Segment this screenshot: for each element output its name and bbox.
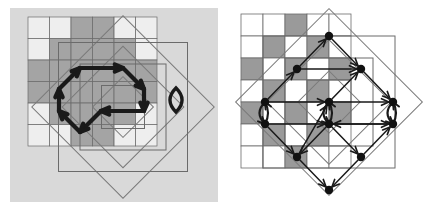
lattice-cell bbox=[241, 146, 263, 168]
graph-node[interactable] bbox=[293, 65, 301, 73]
lattice-cell bbox=[136, 125, 158, 147]
lattice-cell bbox=[241, 14, 263, 36]
lattice-cell bbox=[93, 39, 115, 61]
lattice-cell bbox=[71, 17, 93, 39]
lattice-cell bbox=[50, 39, 72, 61]
lattice-cell bbox=[136, 60, 158, 82]
lattice-cell bbox=[307, 146, 329, 168]
left-panel bbox=[10, 8, 218, 202]
lattice-cell bbox=[28, 125, 50, 147]
lattice-cell bbox=[263, 146, 285, 168]
graph-node[interactable] bbox=[325, 32, 333, 40]
lattice-cell bbox=[136, 17, 158, 39]
graph-node[interactable] bbox=[389, 98, 397, 106]
lattice-cell bbox=[307, 14, 329, 36]
lattice-cell bbox=[241, 58, 263, 80]
lattice-cell bbox=[285, 36, 307, 58]
lattice-cell bbox=[329, 146, 351, 168]
lattice-cell bbox=[114, 103, 136, 125]
lattice-cell bbox=[241, 124, 263, 146]
graph-node[interactable] bbox=[357, 65, 365, 73]
graph-node[interactable] bbox=[325, 120, 333, 128]
lattice-cell bbox=[241, 80, 263, 102]
lattice-cell bbox=[241, 36, 263, 58]
lattice-cell bbox=[71, 82, 93, 104]
graph-node[interactable] bbox=[293, 153, 301, 161]
graph-node[interactable] bbox=[389, 120, 397, 128]
lattice-cell bbox=[136, 39, 158, 61]
lattice-cell bbox=[285, 124, 307, 146]
lattice-cell bbox=[329, 14, 351, 36]
lattice-cell bbox=[263, 58, 285, 80]
lattice-cell bbox=[114, 82, 136, 104]
lattice-cell bbox=[285, 80, 307, 102]
lattice-diagram-svg bbox=[0, 0, 429, 213]
lattice-cell bbox=[285, 102, 307, 124]
figure-container bbox=[0, 0, 429, 213]
right-lattice-base bbox=[241, 14, 351, 168]
lattice-cell bbox=[263, 36, 285, 58]
lattice-cell bbox=[263, 14, 285, 36]
lattice-cell bbox=[114, 17, 136, 39]
lattice-cell bbox=[28, 60, 50, 82]
lattice-cell bbox=[28, 39, 50, 61]
graph-node[interactable] bbox=[357, 153, 365, 161]
graph-node[interactable] bbox=[325, 98, 333, 106]
graph-node[interactable] bbox=[325, 186, 333, 194]
lattice-cell bbox=[93, 82, 115, 104]
graph-node[interactable] bbox=[261, 120, 269, 128]
lattice-cell bbox=[93, 125, 115, 147]
graph-node[interactable] bbox=[261, 98, 269, 106]
lattice-cell bbox=[93, 60, 115, 82]
lattice-cell bbox=[28, 17, 50, 39]
lattice-cell bbox=[50, 17, 72, 39]
lattice-cell bbox=[114, 39, 136, 61]
lattice-cell bbox=[285, 14, 307, 36]
right-panel bbox=[225, 6, 425, 206]
